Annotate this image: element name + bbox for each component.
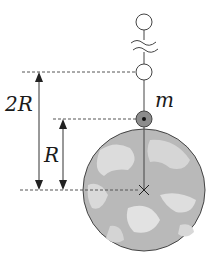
label-mass-m: m [155,88,174,112]
label-R: R [43,143,59,167]
position-2R-circle [136,64,152,80]
dimension-arrow-2R [35,72,43,190]
dimension-arrow-R [59,119,67,190]
axis-break-icon [131,41,158,53]
mass-m [136,111,152,127]
label-2R: 2R [4,92,33,116]
far-position-circle [136,14,152,30]
gravitation-diagram: 2R R m [0,0,214,263]
